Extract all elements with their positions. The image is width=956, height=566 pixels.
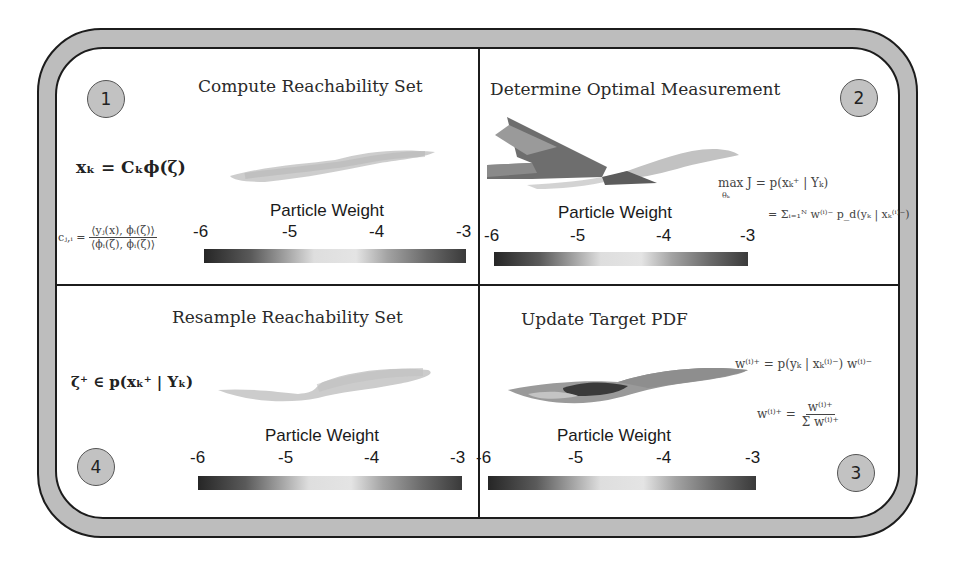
colorbar-label: Particle Weight [557, 426, 671, 446]
colorbar-label: Particle Weight [270, 201, 384, 221]
vertical-divider [478, 49, 480, 517]
colorbar-tick: -6 [193, 222, 208, 242]
colorbar-tick: -4 [656, 226, 671, 246]
step-badge-2: 2 [840, 79, 878, 117]
colorbar-tick: -3 [450, 448, 465, 468]
equation-objective-subscript: θₖ [722, 191, 730, 200]
step-badge-1: 1 [87, 80, 125, 118]
step-badge-3: 3 [837, 454, 875, 492]
colorbar-tick: -3 [456, 222, 471, 242]
horizontal-divider [57, 284, 898, 286]
colorbar [204, 249, 466, 263]
colorbar-tick: -3 [745, 448, 760, 468]
colorbar-tick: -5 [570, 226, 585, 246]
equation-objective: max J = p(xₖ⁺ | Yₖ) [718, 176, 828, 190]
colorbar [494, 252, 748, 266]
colorbar-tick: -6 [476, 448, 491, 468]
equation-weight-normalize: w⁽ⁱ⁾⁺ = w⁽ⁱ⁾⁺ Σ w⁽ⁱ⁾⁺ [757, 400, 841, 429]
colorbar-tick: -3 [740, 226, 755, 246]
panel-title: Compute Reachability Set [198, 76, 423, 96]
colorbar-tick: -5 [278, 448, 293, 468]
colorbar-tick: -6 [190, 448, 205, 468]
colorbar [198, 476, 462, 490]
equation-resample: ζ⁺ ∈ p(xₖ⁺ | Yₖ) [71, 373, 193, 391]
panel-title: Resample Reachability Set [172, 307, 403, 327]
particle-cloud-weighted [508, 360, 758, 415]
colorbar-label: Particle Weight [558, 203, 672, 223]
colorbar-tick: -4 [656, 448, 671, 468]
panel-title: Update Target PDF [521, 309, 688, 329]
colorbar-tick: -4 [369, 222, 384, 242]
colorbar-tick: -4 [364, 448, 379, 468]
colorbar-tick: -6 [484, 226, 499, 246]
equation-objective-expansion: = Σᵢ₌₁ᴺ w⁽ⁱ⁾⁻ p_d(yₖ | xₖ⁽ⁱ⁾⁻) [768, 208, 910, 221]
equation-coefficient: cⱼ,ᵢ = ⟨yⱼ(x), ϕᵢ(ζ)⟩ ⟨ϕᵢ(ζ), ϕᵢ(ζ)⟩ [58, 224, 157, 251]
particle-cloud [225, 140, 445, 190]
colorbar-tick: -5 [282, 222, 297, 242]
colorbar [488, 476, 756, 490]
colorbar-tick: -5 [568, 448, 583, 468]
particle-cloud-with-sensor-fov [487, 115, 747, 195]
particle-cloud [218, 362, 443, 412]
equation-state-projection: xₖ = Cₖϕ(ζ) [76, 157, 186, 177]
panel-title: Determine Optimal Measurement [490, 79, 780, 99]
colorbar-label: Particle Weight [265, 426, 379, 446]
step-badge-4: 4 [77, 448, 115, 486]
